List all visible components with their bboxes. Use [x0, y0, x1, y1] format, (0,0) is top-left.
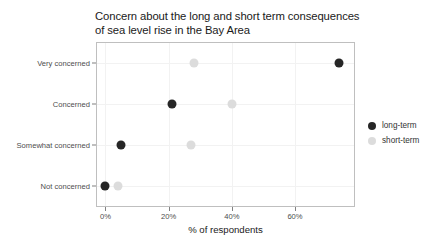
data-point: [114, 182, 123, 191]
y-axis-tick-label: Somewhat concerned: [17, 141, 90, 150]
y-axis-tick-mark: [92, 103, 96, 104]
x-axis-title: % of respondents: [96, 224, 355, 235]
chart-legend: long-termshort-term: [368, 118, 438, 148]
x-axis-tick-mark: [232, 207, 233, 211]
legend-item[interactable]: long-term: [368, 118, 438, 133]
legend-swatch-dot-icon: [368, 137, 376, 145]
data-point: [167, 99, 176, 108]
y-axis-tick-label: Not concerned: [41, 182, 90, 191]
grid-line-horizontal: [97, 104, 354, 105]
legend-item-label: short-term: [382, 136, 419, 145]
x-axis-tick-mark: [169, 207, 170, 211]
y-axis-tick-mark: [92, 186, 96, 187]
plot-panel: [96, 42, 355, 207]
legend-item-label: long-term: [382, 121, 417, 130]
x-axis-tick-mark: [295, 207, 296, 211]
y-axis-tick-mark: [92, 145, 96, 146]
legend-item[interactable]: short-term: [368, 133, 438, 148]
data-point: [186, 141, 195, 150]
chart-figure: Concern about the long and short term co…: [0, 0, 441, 244]
grid-line-vertical: [169, 43, 170, 206]
data-point: [189, 58, 198, 67]
data-point: [117, 141, 126, 150]
x-axis-tick-label: 60%: [287, 212, 302, 221]
data-point: [335, 58, 344, 67]
y-axis-tick-mark: [92, 62, 96, 63]
grid-line-horizontal: [97, 186, 354, 187]
grid-line-horizontal: [97, 63, 354, 64]
y-axis-tick-label: Concerned: [53, 99, 90, 108]
grid-line-vertical: [232, 43, 233, 206]
x-axis-tick-label: 40%: [224, 212, 239, 221]
data-point: [101, 182, 110, 191]
grid-line-horizontal: [97, 145, 354, 146]
y-axis-tick-label: Very concerned: [37, 58, 90, 67]
x-axis-tick-label: 20%: [161, 212, 176, 221]
chart-title: Concern about the long and short term co…: [95, 9, 385, 37]
grid-line-vertical: [295, 43, 296, 206]
legend-swatch-dot-icon: [368, 122, 376, 130]
data-point: [227, 99, 236, 108]
x-axis-tick-label: 0%: [100, 212, 111, 221]
x-axis-tick-mark: [105, 207, 106, 211]
